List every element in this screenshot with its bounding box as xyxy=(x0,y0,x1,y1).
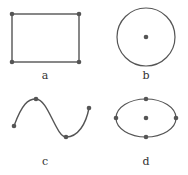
point-marker xyxy=(64,135,69,140)
rectangle-corner-points xyxy=(10,12,82,65)
rectangle-shape xyxy=(12,14,79,62)
panel-c-curve: c xyxy=(12,97,92,168)
point-marker xyxy=(144,116,149,121)
panel-b-circle: b xyxy=(117,8,175,82)
point-marker xyxy=(114,116,119,121)
point-marker xyxy=(174,116,179,121)
label-b: b xyxy=(142,69,149,82)
label-d: d xyxy=(142,155,149,168)
label-c: c xyxy=(42,155,48,168)
panel-a-rectangle: a xyxy=(10,12,82,82)
circle-center-point xyxy=(144,35,149,40)
point-marker xyxy=(34,97,39,102)
point-marker xyxy=(77,12,82,17)
point-marker xyxy=(12,124,17,129)
point-marker xyxy=(87,106,92,111)
diagram-canvas: a b c d xyxy=(0,0,188,175)
point-marker xyxy=(144,35,149,40)
panel-d-ellipse: d xyxy=(114,97,179,168)
curve-shape xyxy=(14,99,89,137)
point-marker xyxy=(77,60,82,65)
point-marker xyxy=(144,135,149,140)
point-marker xyxy=(144,97,149,102)
ellipse-points xyxy=(114,97,179,140)
point-marker xyxy=(10,12,15,17)
label-a: a xyxy=(42,69,49,82)
point-marker xyxy=(10,60,15,65)
